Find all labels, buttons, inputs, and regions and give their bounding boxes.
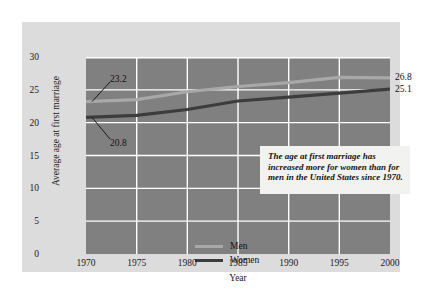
legend-swatch-men [195, 245, 223, 248]
legend-label-men: Men [230, 241, 247, 251]
y-axis-title: Average age at first marriage [51, 51, 61, 211]
xtick-label-1985: 1985 [218, 258, 258, 269]
ytick-label-30: 30 [13, 52, 39, 62]
value-label-men-end: 26.8 [395, 72, 412, 82]
chart-panel: Men Women 30 25 20 15 10 5 0 1970 1975 1… [22, 22, 400, 272]
ytick-label-0: 0 [13, 249, 39, 259]
annotation-callout: The age at first marriage has increased … [260, 146, 410, 194]
xtick-label-1990: 1990 [269, 258, 309, 269]
legend-item-men: Men [195, 239, 259, 253]
annotation-callout-text: The age at first marriage has increased … [268, 151, 403, 183]
xtick-label-1980: 1980 [167, 258, 207, 269]
ytick-label-25: 25 [13, 85, 39, 95]
ytick-label-20: 20 [13, 118, 39, 128]
value-label-women-end: 25.1 [395, 84, 412, 94]
xtick-label-1975: 1975 [117, 258, 157, 269]
xtick-label-1995: 1995 [319, 258, 359, 269]
chart-figure: Men Women 30 25 20 15 10 5 0 1970 1975 1… [0, 0, 421, 292]
value-label-men-start: 23.2 [110, 74, 127, 84]
x-axis-title: Year [86, 273, 390, 283]
xtick-label-1970: 1970 [66, 258, 106, 269]
ytick-label-10: 10 [13, 183, 39, 193]
leader-lines [92, 82, 110, 139]
ytick-label-15: 15 [13, 151, 39, 161]
ytick-label-5: 5 [13, 216, 39, 226]
xtick-label-2000: 2000 [370, 258, 410, 269]
value-label-women-start: 20.8 [110, 138, 127, 148]
